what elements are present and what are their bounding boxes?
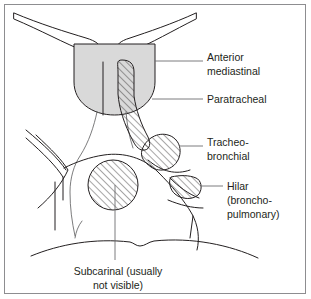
label-tracheobronchial-line1: Tracheo-	[207, 136, 249, 148]
label-hilar-line1: Hilar	[227, 180, 249, 192]
label-paratracheal: Paratracheal	[207, 93, 267, 105]
label-tracheobronchial-line2: bronchial	[207, 150, 250, 162]
label-anterior-mediastinal: Anterior mediastinal	[207, 51, 260, 77]
caption-subcarinal-line2: not visible)	[93, 279, 143, 291]
label-anterior-mediastinal-line1: Anterior	[207, 51, 244, 63]
label-tracheobronchial: Tracheo- bronchial	[207, 136, 250, 162]
label-paratracheal-line1: Paratracheal	[207, 93, 267, 105]
label-hilar: Hilar (broncho- pulmonary)	[227, 180, 280, 220]
caption-subcarinal-line1: Subcarinal (usually	[74, 265, 163, 277]
anterior-mediastinal-region	[74, 44, 155, 115]
label-anterior-mediastinal-line2: mediastinal	[207, 65, 260, 77]
label-hilar-line2: (broncho-	[227, 194, 272, 206]
diaphragm	[31, 240, 258, 258]
label-hilar-line3: pulmonary)	[227, 208, 280, 220]
right-descending-vessel	[190, 216, 193, 238]
bronchial-tree-left	[26, 130, 68, 230]
anatomy-diagram: Anterior mediastinal Paratracheal Trache…	[0, 0, 311, 299]
hilar-node	[170, 176, 202, 199]
caption-subcarinal: Subcarinal (usually not visible)	[74, 265, 163, 291]
figure-root: Anterior mediastinal Paratracheal Trache…	[0, 0, 311, 299]
subcarinal-node	[88, 160, 138, 210]
